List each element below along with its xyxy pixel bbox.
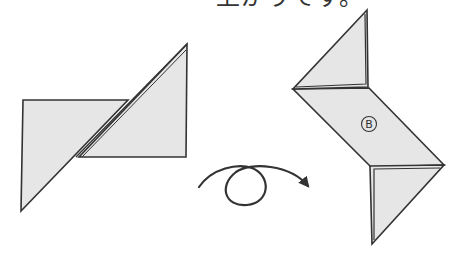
before-figure	[21, 44, 187, 211]
loop-arrow-icon	[199, 166, 308, 205]
bottom-triangle	[370, 165, 444, 244]
panel-label-text: B	[365, 118, 373, 131]
top-triangle	[293, 10, 368, 89]
origami-diagram: B	[0, 0, 451, 258]
turn-over-arrow	[199, 166, 308, 205]
